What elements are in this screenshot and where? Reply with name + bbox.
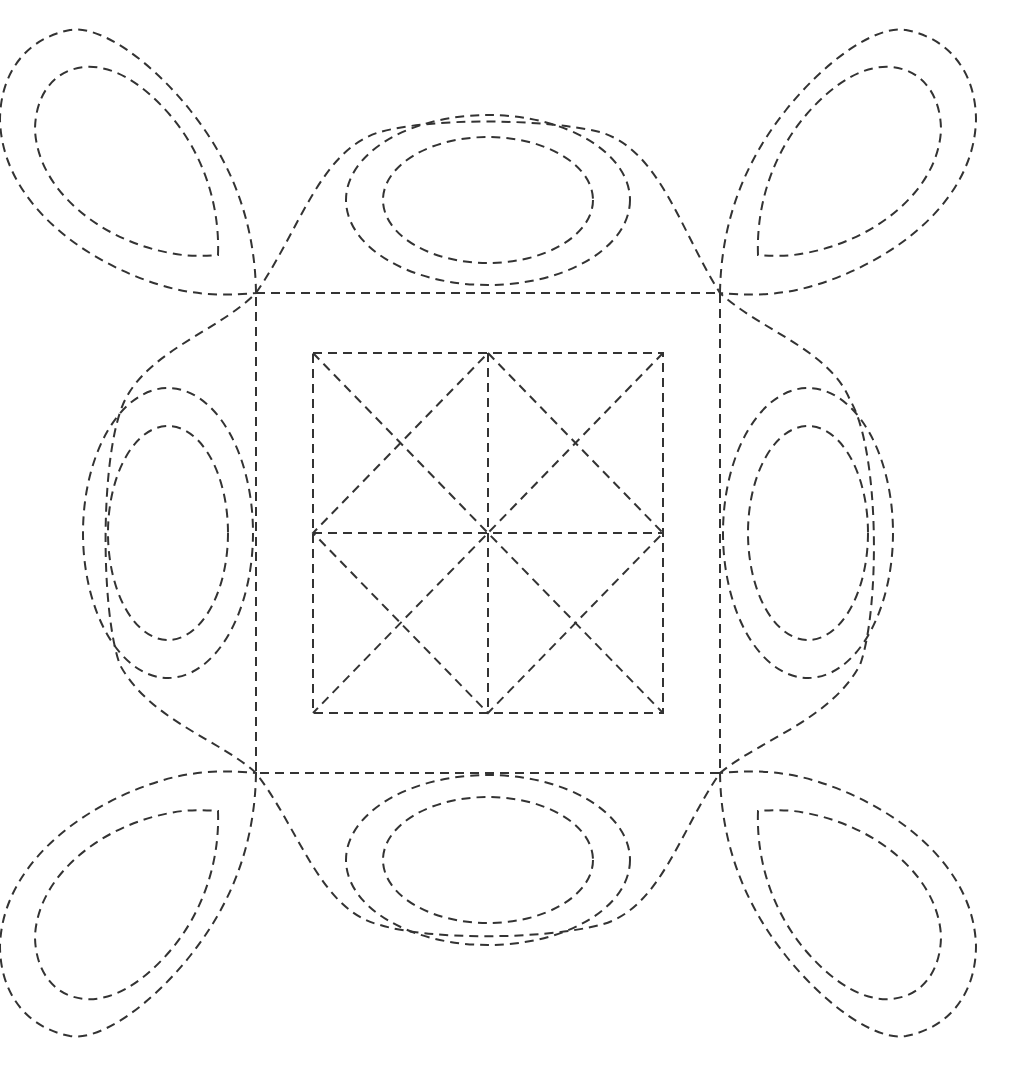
dashed-pattern-diagram (0, 0, 1030, 1086)
bottom-oval-inner (383, 797, 593, 923)
central-grid (256, 293, 720, 773)
top-oval-inner (383, 137, 593, 263)
bottom-oval-outer (346, 775, 630, 945)
top-oval-outer (346, 115, 630, 285)
right-oval-inner (748, 426, 868, 640)
top-left-petal-inner (35, 67, 218, 256)
top-right-petal-inner (758, 67, 941, 256)
bottom-right-petal-inner (758, 810, 941, 999)
left-oval-inner (108, 426, 228, 640)
bottom-left-petal-inner (35, 810, 218, 999)
